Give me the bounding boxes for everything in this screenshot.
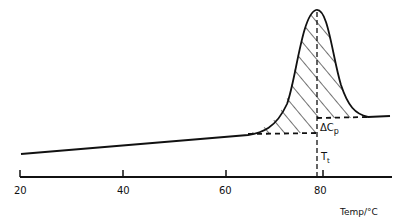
lower-baseline-dashed	[248, 133, 317, 134]
x-tick-label-60: 60	[219, 185, 232, 196]
x-tick-label-80: 80	[314, 185, 327, 196]
delta-cp-label: ΔCp	[320, 122, 339, 136]
tt-label: Tt	[320, 151, 330, 165]
x-tick-label-40: 40	[117, 185, 130, 196]
x-axis	[20, 170, 392, 177]
x-axis-title: Temp/°C	[339, 207, 378, 217]
hatched-peak-area	[240, 0, 380, 140]
x-tick-label-20: 20	[14, 185, 27, 196]
dsc-chart: 20 40 60 80 Temp/°C ΔCp Tt	[0, 0, 403, 223]
